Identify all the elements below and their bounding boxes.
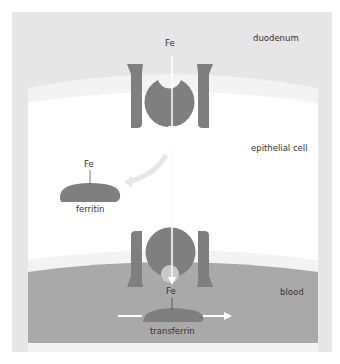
fe-label-blood: Fe <box>166 286 176 296</box>
transferrin-label: transferrin <box>150 326 195 336</box>
ferritin-label: ferritin <box>76 204 105 214</box>
duodenum-label: duodenum <box>253 33 299 43</box>
iron-absorption-diagram <box>0 0 340 364</box>
fe-label-lumen: Fe <box>165 38 175 48</box>
blood-label: blood <box>280 287 304 297</box>
epithelial-cell-label: epithelial cell <box>251 143 308 153</box>
fe-label-ferritin: Fe <box>84 159 94 169</box>
